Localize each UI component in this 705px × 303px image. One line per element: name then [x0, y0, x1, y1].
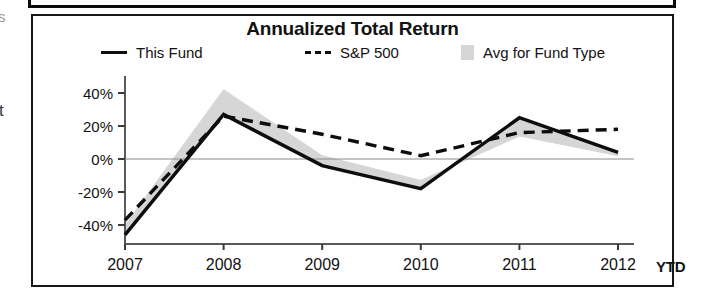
plot-svg — [33, 16, 676, 289]
x-tick-label: 2010 — [386, 256, 456, 274]
x-tick-label: 2012 — [583, 256, 653, 274]
x-tick-label: 2009 — [287, 256, 357, 274]
y-tick-label: 0% — [59, 151, 113, 168]
plot-area: 40%20%0%-20%-40% 20072008200920102011201… — [33, 16, 676, 289]
x-tick-label: 2011 — [484, 256, 554, 274]
chart-container: Annualized Total Return This Fund S&P 50… — [31, 14, 674, 287]
margin-text-artifact-upper: s — [0, 8, 12, 26]
ytd-label: YTD — [656, 258, 685, 275]
y-tick-label: 40% — [59, 85, 113, 102]
x-tick-label: 2008 — [189, 256, 259, 274]
scan-edge-artifact-top-inner — [31, 0, 673, 5]
margin-text-artifact-lower: t — [0, 101, 13, 121]
x-tick-label: 2007 — [90, 256, 160, 274]
y-tick-label: 20% — [59, 118, 113, 135]
y-tick-label: -20% — [59, 184, 113, 201]
y-tick-label: -40% — [59, 217, 113, 234]
